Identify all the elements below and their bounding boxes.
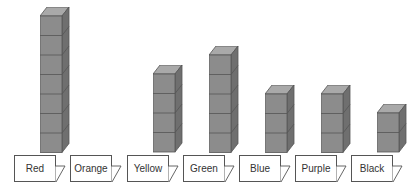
cube-stack-yellow	[153, 65, 193, 155]
cube-stack-black	[377, 104, 416, 155]
color-label-card: Red	[14, 155, 56, 182]
card-flap-icon	[111, 164, 123, 182]
color-label-card: Black	[351, 155, 393, 182]
card-flap-icon	[336, 164, 348, 182]
card-flap-icon	[168, 164, 180, 182]
color-label-card: Green	[183, 155, 225, 182]
cube-stack-green	[209, 46, 249, 156]
cube-stack-purple	[321, 85, 361, 156]
color-label-card: Orange	[70, 155, 112, 182]
color-label-card: Yellow	[127, 155, 169, 182]
cube-stack-red	[40, 7, 80, 156]
card-flap-icon	[224, 164, 236, 182]
card-flap-icon	[280, 164, 292, 182]
cube-stack-blue	[265, 85, 305, 156]
color-label-card: Blue	[239, 155, 281, 182]
card-flap-icon	[55, 164, 67, 182]
card-flap-icon	[392, 164, 404, 182]
color-label-card: Purple	[295, 155, 337, 182]
